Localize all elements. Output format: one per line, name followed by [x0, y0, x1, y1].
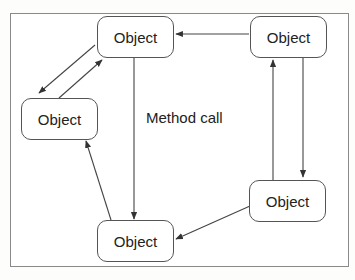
node-label: Object — [38, 111, 81, 128]
node-label: Object — [266, 193, 309, 210]
object-node-left[interactable]: Object — [21, 98, 98, 140]
object-node-bottom-center[interactable]: Object — [97, 220, 174, 262]
node-label: Object — [114, 233, 157, 250]
object-node-top-center[interactable]: Object — [97, 16, 174, 58]
node-label: Object — [267, 29, 310, 46]
object-node-bottom-right[interactable]: Object — [249, 180, 326, 222]
object-node-top-right[interactable]: Object — [250, 16, 327, 58]
node-label: Object — [114, 29, 157, 46]
method-call-label: Method call — [146, 109, 223, 126]
